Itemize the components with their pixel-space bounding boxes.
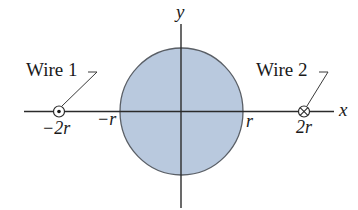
diagram-canvas xyxy=(0,0,358,210)
wire-2-label: Wire 2 xyxy=(256,60,307,79)
y-axis-label: y xyxy=(176,2,184,21)
tick-label-pos-2r: 2r xyxy=(296,118,312,136)
wire-2-into-page-icon xyxy=(299,106,310,117)
tick-label-neg-r: −r xyxy=(97,110,116,128)
tick-label-neg-2r: −2r xyxy=(42,119,70,137)
x-axis-label: x xyxy=(339,100,347,119)
wire-1-label: Wire 1 xyxy=(26,60,77,79)
wire-2-leader-line xyxy=(307,72,328,106)
wire-1-out-of-page-icon xyxy=(54,106,65,117)
tick-label-pos-r: r xyxy=(246,112,253,130)
